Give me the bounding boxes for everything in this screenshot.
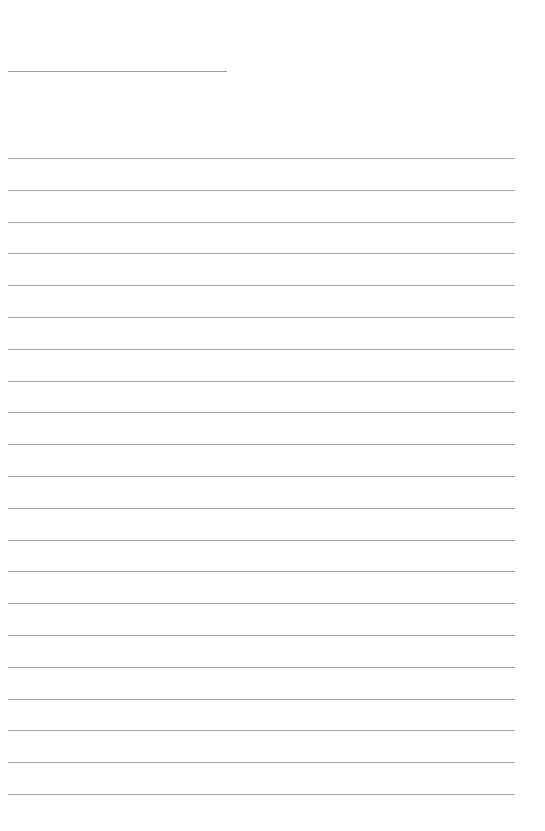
ruled-line bbox=[8, 253, 515, 254]
ruled-line bbox=[8, 158, 515, 159]
ruled-line bbox=[8, 317, 515, 318]
ruled-line bbox=[8, 667, 515, 668]
ruled-line bbox=[8, 635, 515, 636]
ruled-line bbox=[8, 603, 515, 604]
ruled-line bbox=[8, 285, 515, 286]
ruled-line bbox=[8, 540, 515, 541]
ruled-line bbox=[8, 699, 515, 700]
ruled-line bbox=[8, 381, 515, 382]
ruled-line bbox=[8, 476, 515, 477]
ruled-line bbox=[8, 508, 515, 509]
ruled-line bbox=[8, 571, 515, 572]
title-writing-line bbox=[8, 71, 227, 72]
ruled-line bbox=[8, 794, 515, 795]
ruled-line bbox=[8, 444, 515, 445]
ruled-line bbox=[8, 412, 515, 413]
lined-paper-page bbox=[0, 0, 545, 831]
ruled-line bbox=[8, 762, 515, 763]
ruled-line bbox=[8, 730, 515, 731]
ruled-line bbox=[8, 190, 515, 191]
ruled-line bbox=[8, 222, 515, 223]
ruled-line bbox=[8, 349, 515, 350]
